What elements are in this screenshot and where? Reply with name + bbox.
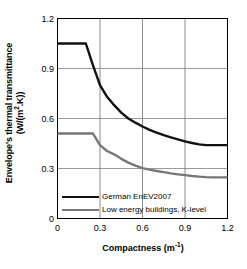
plot-area bbox=[57, 18, 228, 219]
gridlines bbox=[58, 19, 228, 219]
y-axis-title-line2-base: (W/(m bbox=[15, 109, 25, 134]
y-tick-label: 0.6 bbox=[30, 114, 54, 123]
y-axis-title: Envelope's thermal transmittance (W/(m2.… bbox=[0, 0, 30, 225]
y-axis-title-line2-tail: .K)) bbox=[15, 91, 25, 106]
y-tick-label: 0.3 bbox=[30, 164, 54, 173]
black-line-swatch bbox=[62, 196, 99, 198]
y-axis-title-line1: Envelope's thermal transmittance bbox=[4, 42, 14, 183]
x-axis-title-tail: ) bbox=[181, 243, 184, 253]
y-axis-title-line2: (W/(m2.K)) bbox=[15, 42, 26, 183]
x-axis-title-base: Compactness (m bbox=[102, 243, 175, 253]
y-axis-title-line2-superscript: 2 bbox=[13, 106, 20, 110]
legend-item: Low energy buildings, K-level bbox=[62, 203, 222, 216]
x-tick-label: 0.3 bbox=[94, 224, 107, 233]
x-tick-label: 0.9 bbox=[179, 224, 192, 233]
x-axis-tick-labels: 00.30.60.91.2 bbox=[0, 224, 247, 236]
x-tick-label: 0.6 bbox=[136, 224, 149, 233]
y-tick-label: 0.9 bbox=[30, 64, 54, 73]
y-tick-label: 0 bbox=[30, 214, 54, 223]
x-tick-label: 0 bbox=[55, 224, 60, 233]
x-axis-title: Compactness (m-1) bbox=[57, 243, 229, 253]
legend-item: German EnEV2007 bbox=[62, 190, 222, 203]
gray-line-swatch bbox=[62, 209, 99, 211]
y-tick-label: 1.2 bbox=[30, 14, 54, 23]
legend-item-label: Low energy buildings, K-level bbox=[102, 205, 206, 214]
chart-figure: Envelope's thermal transmittance (W/(m2.… bbox=[0, 0, 247, 269]
legend-item-label: German EnEV2007 bbox=[102, 192, 171, 201]
legend: German EnEV2007Low energy buildings, K-l… bbox=[62, 190, 222, 216]
x-tick-label: 1.2 bbox=[221, 224, 234, 233]
plot-svg bbox=[57, 18, 228, 219]
